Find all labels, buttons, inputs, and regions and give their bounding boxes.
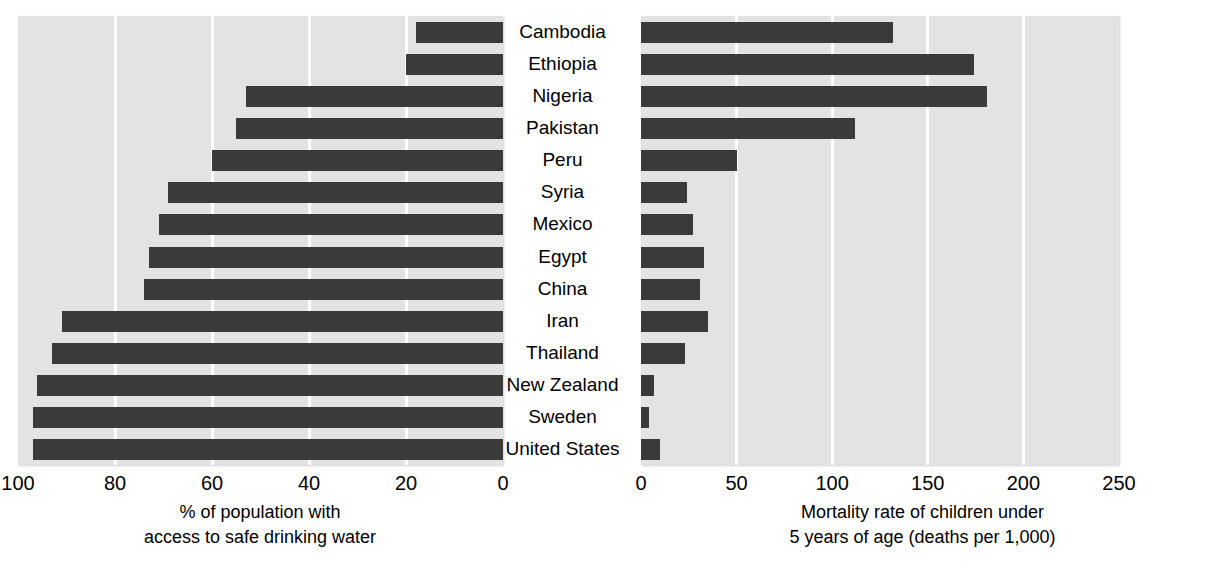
category-label-new-zealand: New Zealand [505, 373, 620, 397]
category-label-sweden: Sweden [505, 405, 620, 429]
category-label-thailand: Thailand [505, 341, 620, 365]
bar-row [18, 241, 503, 273]
bar-mexico [159, 214, 503, 235]
bar-iran [641, 311, 708, 332]
category-label-egypt: Egypt [505, 245, 620, 269]
bar-row [641, 16, 1119, 48]
bar-row [18, 305, 503, 337]
bar-row [18, 16, 503, 48]
bar-ethiopia [406, 54, 503, 75]
category-label-iran: Iran [505, 309, 620, 333]
bar-row [18, 401, 503, 433]
plot-area-water-access [18, 16, 503, 465]
category-label-united-states: United States [505, 437, 620, 461]
bar-cambodia [416, 22, 503, 43]
bar-row [641, 433, 1119, 465]
bars-child-mortality [641, 16, 1119, 465]
bar-china [641, 279, 700, 300]
bar-row [641, 337, 1119, 369]
bar-china [144, 279, 503, 300]
x-axis-label-water-access: % of population with access to safe drin… [0, 500, 520, 550]
axis-tick-label: 100 [816, 471, 849, 495]
panel-child-mortality: 050100150200250 Mortality rate of childr… [620, 0, 1225, 565]
bar-row [641, 144, 1119, 176]
category-label-peru: Peru [505, 148, 620, 172]
bar-row [18, 144, 503, 176]
bar-new-zealand [641, 375, 654, 396]
x-axis-label-line-1: % of population with [0, 500, 520, 525]
axis-tick-label: 50 [725, 471, 747, 495]
category-label-ethiopia: Ethiopia [505, 52, 620, 76]
bar-row [18, 337, 503, 369]
axis-tick-label: 150 [911, 471, 944, 495]
bar-mexico [641, 214, 693, 235]
x-axis-child-mortality: 050100150200250 [620, 471, 1225, 495]
axis-tick-label: 0 [497, 471, 508, 495]
bar-syria [168, 182, 503, 203]
category-label-mexico: Mexico [505, 212, 620, 236]
axis-tick-label: 100 [1, 471, 34, 495]
bar-nigeria [246, 86, 503, 107]
bar-thailand [52, 343, 503, 364]
axis-tick-label: 20 [395, 471, 417, 495]
bar-united-states [641, 439, 660, 460]
bar-egypt [641, 247, 704, 268]
category-label-cambodia: Cambodia [505, 20, 620, 44]
bar-syria [641, 182, 687, 203]
bar-row [18, 208, 503, 240]
bar-row [18, 48, 503, 80]
bar-row [641, 273, 1119, 305]
bar-sweden [33, 407, 503, 428]
bar-row [18, 176, 503, 208]
bar-new-zealand [37, 375, 503, 396]
bar-egypt [149, 247, 503, 268]
bar-iran [62, 311, 503, 332]
axis-tick-label: 40 [298, 471, 320, 495]
category-label-nigeria: Nigeria [505, 84, 620, 108]
bar-row [641, 401, 1119, 433]
bar-row [641, 80, 1119, 112]
bar-ethiopia [641, 54, 974, 75]
axis-tick-label: 80 [104, 471, 126, 495]
axis-tick-label: 250 [1102, 471, 1135, 495]
bar-thailand [641, 343, 685, 364]
bar-peru [212, 150, 503, 171]
x-axis-label-line-2: access to safe drinking water [0, 525, 520, 550]
dual-bar-chart-figure: 100806040200 % of population with access… [0, 0, 1225, 565]
bars-water-access [18, 16, 503, 465]
plot-area-child-mortality [641, 16, 1119, 465]
x-axis-label-line-2: 5 years of age (deaths per 1,000) [620, 525, 1225, 550]
x-axis-label-child-mortality: Mortality rate of children under 5 years… [620, 500, 1225, 550]
bar-row [18, 433, 503, 465]
category-label-pakistan: Pakistan [505, 116, 620, 140]
panel-water-access: 100806040200 % of population with access… [0, 0, 520, 565]
bar-row [641, 369, 1119, 401]
bar-row [641, 241, 1119, 273]
x-axis-label-line-1: Mortality rate of children under [620, 500, 1225, 525]
axis-tick-label: 200 [1007, 471, 1040, 495]
x-axis-water-access: 100806040200 [0, 471, 520, 495]
bar-pakistan [641, 118, 855, 139]
axis-tick-label: 0 [635, 471, 646, 495]
bar-nigeria [641, 86, 987, 107]
bar-row [18, 369, 503, 401]
bar-row [18, 80, 503, 112]
bar-pakistan [236, 118, 503, 139]
bar-sweden [641, 407, 649, 428]
bar-row [641, 176, 1119, 208]
bar-row [18, 273, 503, 305]
bar-row [641, 305, 1119, 337]
bar-peru [641, 150, 737, 171]
category-labels: CambodiaEthiopiaNigeriaPakistanPeruSyria… [505, 16, 620, 465]
bar-united-states [33, 439, 503, 460]
bar-row [641, 48, 1119, 80]
axis-tick-label: 60 [201, 471, 223, 495]
bar-row [641, 208, 1119, 240]
bar-cambodia [641, 22, 893, 43]
bar-row [18, 112, 503, 144]
bar-row [641, 112, 1119, 144]
category-label-china: China [505, 277, 620, 301]
category-label-syria: Syria [505, 180, 620, 204]
